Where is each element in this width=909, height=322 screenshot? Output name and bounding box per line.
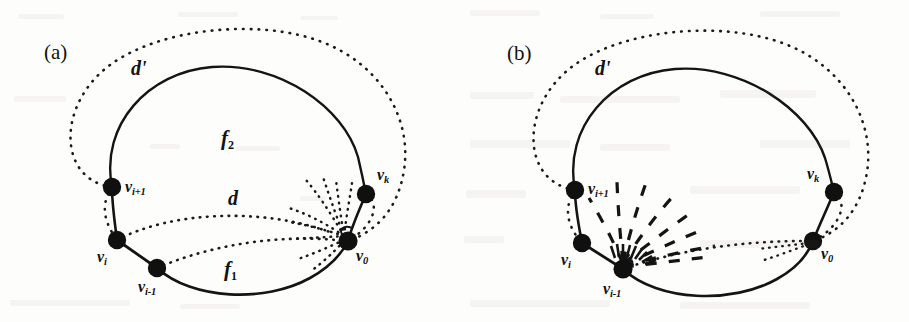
panel-a-label-vi-plus-1-sub: i+1 xyxy=(132,186,146,197)
panel-a-label-v0: v0 xyxy=(356,248,368,266)
solid-cycle-b xyxy=(573,69,834,192)
panel-b-label-v0: v0 xyxy=(821,246,833,264)
solid-cycle-a xyxy=(110,67,366,194)
panel-a-face-f1-base: f xyxy=(224,257,231,281)
panel-b-label-vk-sub: k xyxy=(814,173,819,184)
panel-a-label-vi-minus-1: vi-1 xyxy=(138,279,156,297)
dotted-fan-a xyxy=(286,174,352,271)
vertex-vi-a xyxy=(108,231,126,249)
vertex-v0-a xyxy=(338,231,357,250)
panel-b-label-vk: vk xyxy=(807,166,819,184)
outer-dotted-curve-b xyxy=(533,31,868,241)
panel-b-tag: (b) xyxy=(507,43,532,64)
panel-a-label-vk-sub: k xyxy=(384,174,389,185)
panel-b-label-v0-sub: 0 xyxy=(828,253,833,264)
panel-a-face-f1: f1 xyxy=(224,259,237,282)
dotted-edge-f1-a xyxy=(157,239,336,268)
panel-a-label-vi: vi xyxy=(97,249,107,267)
panel-a-edge-d-label: d xyxy=(228,188,238,208)
dotted-edge-d-a xyxy=(117,216,330,240)
panel-a-label-vi-minus-1-sub: i-1 xyxy=(145,286,156,297)
panel-a-face-f1-sub: 1 xyxy=(231,269,237,283)
vertex-v0-b xyxy=(804,232,822,250)
outer-dotted-curve-a xyxy=(70,29,405,241)
vertex-vi-plus-1-b xyxy=(566,181,584,199)
solid-bottom-arc-b xyxy=(623,241,813,296)
panel-a-label-v0-sub: 0 xyxy=(363,255,368,266)
vertex-vk-b xyxy=(825,183,843,201)
panel-a-outer-curve-label: d' xyxy=(131,58,147,78)
panel-b-label-vi-plus-1: vi+1 xyxy=(588,181,609,199)
panel-a-label-vk: vk xyxy=(377,167,389,185)
panel-b-label-vi-plus-1-sub: i+1 xyxy=(595,188,609,199)
panel-b-label-vi: vi xyxy=(561,252,571,270)
panel-b-outer-curve-label: d' xyxy=(595,58,611,78)
panel-a-label-vi-plus-1: vi+1 xyxy=(125,179,146,197)
solid-bottom-arc-a xyxy=(157,241,348,295)
vertex-vi-b xyxy=(573,234,591,252)
panel-b-label-vi-minus-1-sub: i-1 xyxy=(610,288,621,299)
panel-b-label-vi-minus-1: vi-1 xyxy=(603,281,621,299)
panel-a-face-f2-base: f xyxy=(221,126,228,150)
panel-b: (b) d' vi+1 vi vi-1 v0 vk xyxy=(455,0,909,322)
vertex-vk-a xyxy=(357,185,375,203)
panel-a-face-f2: f2 xyxy=(221,128,234,151)
vertex-vi-minus-1-b xyxy=(613,259,632,278)
panel-a-tag: (a) xyxy=(44,42,67,63)
vertex-vi-plus-1-a xyxy=(103,178,121,196)
panel-b-label-vi-sub: i xyxy=(568,259,571,270)
figure-container: (a) d' f2 d f1 vi+1 vi vi-1 v0 vk xyxy=(0,0,909,322)
panel-a-label-vi-sub: i xyxy=(104,256,107,267)
panel-a-face-f2-sub: 2 xyxy=(228,138,234,152)
vertex-vi-minus-1-a xyxy=(148,259,166,277)
panel-a: (a) d' f2 d f1 vi+1 vi vi-1 v0 vk xyxy=(0,0,454,322)
